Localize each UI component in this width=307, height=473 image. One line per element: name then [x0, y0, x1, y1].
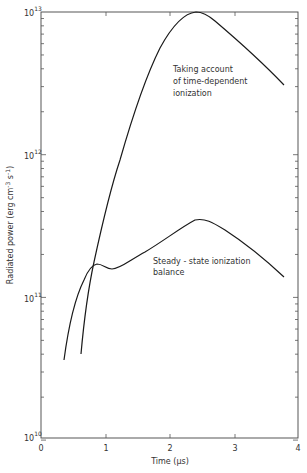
- x-tick-label-1: 1: [103, 444, 108, 453]
- plot-frame: [41, 12, 298, 438]
- y-tick-label-1e12: 1012: [24, 148, 42, 161]
- x-tick-label-0: 0: [38, 444, 43, 453]
- annotation-time-dependent: Taking account of time-dependent ionizat…: [172, 65, 250, 98]
- steady-state-curve: [64, 219, 284, 360]
- chart: 1013 1012 1011 1010 0 1 2 3 4 Time (µs) …: [0, 0, 307, 473]
- y-ticks: [41, 19, 298, 441]
- y-tick-label-1e11: 1011: [24, 291, 42, 304]
- x-tick-label-3: 3: [232, 444, 237, 453]
- y-tick-label-1e13: 1013: [24, 5, 42, 18]
- y-axis-title: Radiated power (erg cm-3 s-1): [4, 166, 15, 284]
- x-tick-label-2: 2: [167, 444, 172, 453]
- y-tick-label-1e10: 1010: [24, 430, 42, 443]
- x-axis-title: Time (µs): [150, 457, 189, 466]
- time-dependent-curve: [81, 12, 284, 354]
- annotation-steady-state: Steady - state ionization balance: [153, 257, 253, 277]
- x-tick-label-4: 4: [295, 444, 300, 453]
